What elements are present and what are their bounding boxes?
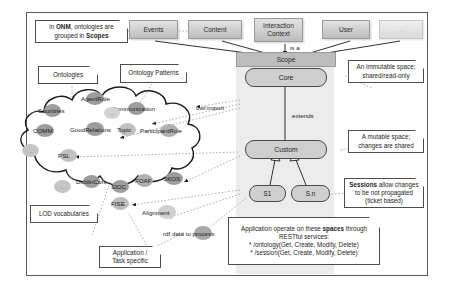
note-ontologies-text: Ontologies: [53, 71, 83, 79]
note-immutable-line1: An immutable space;: [357, 63, 416, 71]
vocab-label-alignment: Alignment: [142, 209, 170, 216]
vocab-label-comm: COMM: [33, 127, 53, 134]
note-sessions-line1-post: allow changes: [377, 181, 419, 188]
note-sessions-line3: (ticket based): [365, 197, 403, 205]
class-box-events[interactable]: Events: [129, 20, 178, 39]
space-custom-label: Custom: [274, 146, 297, 153]
vocab-label-ellipsis-3: ...: [60, 184, 65, 190]
vocab-label-topic: Topic: [117, 126, 131, 133]
class-box-more-label: ...: [398, 26, 404, 34]
vocab-label-goodrelations: GoodRelations: [70, 126, 111, 133]
class-box-content[interactable]: Content: [188, 20, 242, 39]
class-box-interaction-context[interactable]: Interaction Context: [254, 18, 303, 42]
vocab-label-psl: PSL: [58, 152, 70, 159]
note-onm: in ONM, ontologies are grouped in Scopes: [35, 20, 128, 43]
vocab-label-ellipsis-1: ...: [110, 110, 115, 116]
note-mutable-line2: changes are shared: [358, 142, 414, 150]
diagram-canvas: Events Content Interaction Context User …: [0, 0, 450, 293]
space-core-label: Core: [279, 74, 294, 81]
note-lod-text: LOD vocabularies: [39, 210, 89, 218]
note-application-task: Application / Task specific: [99, 246, 161, 268]
note-application-task-line2: Task specific: [112, 257, 148, 265]
class-box-interaction-context-label: Interaction Context: [263, 22, 294, 37]
note-application-task-line1: Application /: [113, 249, 147, 257]
note-mutable-space: A mutable space; changes are shared: [348, 130, 424, 153]
note-restful-line3: * /ontology(Get, Create, Modify, Delete): [249, 241, 359, 249]
class-box-more[interactable]: ...: [379, 20, 423, 39]
note-sessions-line2: to be not propagated: [355, 189, 413, 197]
note-onm-line2-pre: grouped in: [55, 32, 87, 39]
vocab-label-foaf: FOAF: [135, 177, 152, 184]
note-restful-line2: RESTful services:: [279, 233, 329, 241]
class-box-content-label: Content: [203, 26, 226, 34]
space-s1-label: S1: [264, 190, 272, 197]
vocab-label-skos: SKOS: [163, 175, 180, 182]
space-custom[interactable]: Custom: [245, 140, 327, 159]
edge-label-owl-import: owl:import: [196, 104, 224, 111]
vocab-ellipse-ellipsis-2[interactable]: ...: [22, 144, 39, 157]
note-ontology-patterns-text: Ontology Patterns: [128, 69, 178, 77]
note-ontologies: Ontologies: [38, 66, 98, 84]
note-restful-services: Application operate on these spaces thro…: [228, 217, 380, 265]
note-restful-term-spaces: spaces: [323, 225, 344, 232]
class-box-user[interactable]: User: [322, 20, 370, 39]
class-box-user-label: User: [339, 26, 353, 34]
note-immutable-line2: shared/read-only: [362, 72, 409, 80]
note-restful-line1-post: through: [344, 225, 367, 232]
vocab-label-dublincore: DublinCore: [76, 178, 107, 185]
vocab-label-rdf-data: rdf data to process: [163, 230, 214, 237]
note-restful-line4: * /session(Get, Create, Modify, Delete): [250, 249, 357, 257]
vocab-label-sioc: SIOC: [111, 183, 126, 190]
space-core[interactable]: Core: [245, 68, 327, 87]
note-lod-vocabularies: LOD vocabularies: [30, 205, 98, 223]
space-sn-label: S.n: [306, 190, 316, 197]
note-onm-term-onm: ONM: [56, 23, 71, 30]
vocab-ellipse-ellipsis-3[interactable]: ...: [54, 180, 71, 193]
note-restful-line1-pre: Application operate on these: [241, 225, 323, 232]
vocab-ellipse-ellipsis-1[interactable]: ...: [104, 107, 120, 119]
note-sessions: Sessions allow changes to be not propaga…: [344, 178, 424, 208]
class-box-events-label: Events: [143, 26, 163, 34]
edge-label-is-a: is a: [290, 44, 300, 51]
note-onm-term-scopes: Scopes: [86, 32, 108, 39]
vocab-label-fise: FISE: [111, 200, 125, 207]
note-immutable-space: An immutable space; shared/read-only: [348, 60, 424, 83]
note-ontology-patterns: Ontology Patterns: [120, 64, 187, 83]
note-onm-line1-pre: in: [49, 23, 56, 30]
vocab-label-ellipsis-2: ...: [28, 148, 33, 154]
scope-bar[interactable]: Scope: [236, 52, 336, 67]
space-s1[interactable]: S1: [249, 185, 286, 202]
note-mutable-line1: A mutable space;: [362, 133, 410, 141]
space-sn[interactable]: S.n: [291, 185, 330, 202]
note-sessions-term: Sessions: [349, 181, 377, 188]
edge-label-extends: extends: [292, 112, 314, 119]
vocab-label-countries: Countries: [38, 107, 64, 114]
note-onm-line1-post: , ontologies are: [71, 23, 114, 30]
vocab-label-agentrole: AgentRole: [81, 95, 110, 102]
scope-bar-label: Scope: [277, 56, 296, 63]
vocab-label-participantrole: ParticipantRole: [140, 127, 182, 134]
